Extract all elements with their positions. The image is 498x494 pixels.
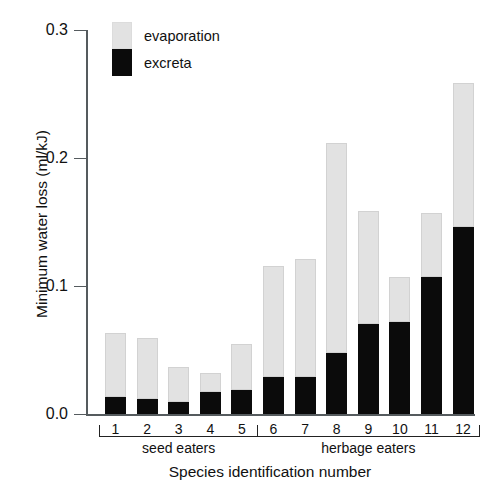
bar-species-12: [453, 82, 474, 414]
y-axis-title: Minimum water loss (ml/kJ): [33, 64, 51, 384]
bar-segment-evaporation: [326, 143, 347, 353]
legend-label-evaporation: evaporation: [144, 29, 220, 43]
bar-species-1: [105, 333, 126, 414]
group-label-herbage-eaters: herbage eaters: [257, 440, 480, 456]
bar-segment-excreta: [358, 324, 379, 414]
bar-species-4: [200, 373, 221, 414]
plot-area: [88, 30, 475, 414]
y-tick-mark: [74, 286, 86, 287]
bar-segment-excreta: [231, 390, 252, 414]
chart-figure: 0.00.10.20.3 Minimum water loss (ml/kJ) …: [0, 0, 498, 494]
bar-segment-excreta: [263, 377, 284, 414]
y-tick-mark: [74, 158, 86, 159]
group-bracket-seed-eaters: [99, 425, 258, 437]
y-tick-mark: [74, 414, 86, 415]
y-tick-mark: [74, 30, 86, 31]
bar-segment-evaporation: [168, 367, 189, 403]
bar-species-6: [263, 266, 284, 414]
x-axis-line: [86, 414, 475, 416]
bar-species-7: [295, 259, 316, 414]
bar-segment-evaporation: [105, 333, 126, 397]
legend-swatch-excreta: [112, 49, 132, 76]
bar-species-10: [389, 277, 410, 414]
bar-segment-excreta: [137, 399, 158, 414]
legend-label-excreta: excreta: [144, 56, 192, 70]
bar-segment-excreta: [105, 397, 126, 414]
bar-species-9: [358, 210, 379, 414]
bar-species-5: [231, 344, 252, 414]
bar-segment-excreta: [326, 353, 347, 414]
bar-species-11: [421, 213, 442, 414]
bar-segment-evaporation: [137, 338, 158, 398]
bar-segment-excreta: [168, 402, 189, 414]
bar-segment-evaporation: [421, 213, 442, 277]
bar-segment-evaporation: [231, 344, 252, 390]
y-tick-label: 0.0: [8, 406, 68, 422]
bar-segment-excreta: [453, 227, 474, 414]
x-axis-title: Species identification number: [60, 463, 480, 481]
legend-swatch-evaporation: [112, 22, 132, 49]
y-tick-label: 0.3: [8, 22, 68, 38]
bar-species-2: [137, 338, 158, 414]
bar-segment-excreta: [295, 377, 316, 414]
bar-segment-evaporation: [200, 373, 221, 392]
bar-species-3: [168, 367, 189, 414]
bar-segment-excreta: [389, 322, 410, 414]
bar-species-8: [326, 143, 347, 414]
bar-segment-evaporation: [453, 83, 474, 228]
bar-segment-evaporation: [389, 277, 410, 322]
bar-segment-excreta: [200, 392, 221, 414]
group-bracket-herbage-eaters: [257, 425, 480, 437]
bar-segment-evaporation: [263, 266, 284, 377]
bar-segment-evaporation: [295, 259, 316, 377]
group-label-seed-eaters: seed eaters: [99, 440, 258, 456]
bar-segment-excreta: [421, 277, 442, 414]
bar-segment-evaporation: [358, 211, 379, 325]
